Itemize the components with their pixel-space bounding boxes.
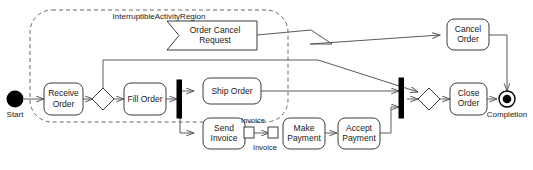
action-ship-order-label-1: Ship Order [211,86,252,96]
join-node-bar [399,78,404,118]
final-node-dot-icon [503,95,512,104]
action-send-invoice-label-2: Invoice [211,133,238,143]
input-pin-invoice-shape[interactable] [268,127,278,138]
action-close-order-label-1: Close [458,88,480,98]
decision-node[interactable] [92,88,114,110]
uml-activity-diagram-canvas: InterruptibleActivityRegion Start Re [0,0,533,170]
edge-cancel-order-to-completion [489,35,507,91]
merge-node-shape [418,88,440,110]
edge-cancel-request-segment-a [257,30,311,35]
accept-event-label-1: Order Cancel [190,25,241,35]
action-close-order-label-2: Order [458,98,480,108]
action-make-payment-label-1: Make [294,123,315,133]
join-node[interactable] [399,78,404,118]
activity-final-node-label: Completion [487,110,527,119]
output-pin-invoice-label: Invoice [241,116,265,125]
edge-fork-to-send-invoice [180,108,194,133]
action-fill-order[interactable]: Fill Order [124,83,166,115]
action-ship-order[interactable]: Ship Order [203,78,261,104]
action-receive-order[interactable]: Receive Order [44,83,83,115]
input-pin-invoice-label: Invoice [253,143,277,152]
accept-event-order-cancel-request[interactable]: Order Cancel Request [167,21,257,50]
action-make-payment-label-2: Payment [287,133,321,143]
initial-node-icon [7,91,24,108]
region-label: InterruptibleActivityRegion [113,12,206,21]
edge-accept-payment-to-join [380,107,399,133]
fork-node-bar [177,80,182,118]
start-node[interactable]: Start [7,91,25,120]
action-accept-payment-label-2: Payment [342,133,376,143]
action-cancel-order[interactable]: Cancel Order [447,19,489,50]
edge-cancel-request-segment-b [310,35,440,44]
merge-node[interactable] [418,88,440,110]
action-fill-order-label-1: Fill Order [128,94,163,104]
activity-diagram-svg: InterruptibleActivityRegion Start Re [0,0,533,170]
action-accept-payment[interactable]: Accept Payment [338,118,380,149]
action-send-invoice-label-1: Send [214,123,234,133]
accept-event-label-2: Request [199,35,231,45]
action-close-order[interactable]: Close Order [450,83,487,115]
activity-final-node[interactable]: Completion [487,91,527,119]
action-receive-order-label-1: Receive [48,88,79,98]
decision-node-shape [92,88,114,110]
action-receive-order-label-2: Order [53,99,75,109]
action-cancel-order-label-2: Order [457,34,479,44]
interrupting-edge-zigzag-icon [310,30,332,44]
action-accept-payment-label-1: Accept [346,123,373,133]
output-pin-invoice-shape[interactable] [244,127,254,138]
start-node-label: Start [7,110,25,119]
action-cancel-order-label-1: Cancel [455,24,482,34]
fork-node[interactable] [177,80,182,118]
